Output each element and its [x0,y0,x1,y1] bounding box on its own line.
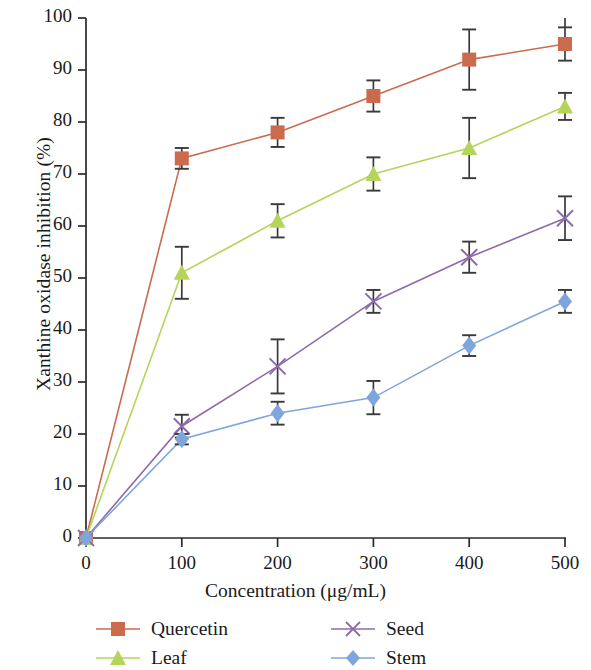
series-leaf [78,93,573,545]
y-tick-label: 10 [30,473,72,495]
data-series-layer [78,27,573,547]
series-seed [78,196,573,546]
x-tick-label: 0 [56,552,116,574]
x-axis-label-text: Concentration (μg/mL) [205,580,386,601]
y-tick-label: 50 [30,265,72,287]
legend-item-seed: Seed [330,614,565,643]
legend-label-leaf: Leaf [141,647,187,669]
y-tick-label: 70 [30,161,72,183]
y-tick-label: 40 [30,317,72,339]
x-tick-label: 500 [535,552,591,574]
legend-key-quercetin [95,619,141,639]
legend-key-seed [330,619,376,639]
y-tick-label: 100 [30,5,72,27]
x-tick-label: 100 [152,552,212,574]
y-tick-label: 80 [30,109,72,131]
series-stem [79,290,572,547]
series-quercetin [79,27,572,545]
y-tick-label: 20 [30,421,72,443]
chart-legend: Quercetin Seed Leaf Stem [95,614,565,670]
figure: Xanthine oxidase inhibition (%) Concentr… [0,0,591,670]
legend-key-leaf [95,648,141,668]
legend-label-seed: Seed [376,618,424,640]
y-tick-label: 90 [30,57,72,79]
legend-key-stem [330,648,376,668]
x-tick-label: 300 [343,552,403,574]
x-tick-label: 400 [439,552,499,574]
x-axis-label: Concentration (μg/mL) [0,580,591,602]
y-tick-label: 60 [30,213,72,235]
legend-item-leaf: Leaf [95,643,330,670]
legend-item-quercetin: Quercetin [95,614,330,643]
y-tick-label: 0 [30,525,72,547]
x-tick-label: 200 [248,552,308,574]
legend-item-stem: Stem [330,643,565,670]
legend-label-stem: Stem [376,647,426,669]
legend-label-quercetin: Quercetin [141,618,228,640]
y-tick-label: 30 [30,369,72,391]
